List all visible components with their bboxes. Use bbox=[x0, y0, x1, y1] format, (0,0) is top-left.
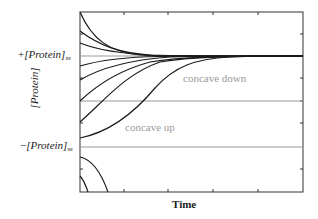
label-sub: ss bbox=[65, 54, 70, 62]
annotation-concave-up: concave up bbox=[125, 121, 175, 133]
trajectory-curves bbox=[80, 12, 303, 192]
plot-frame bbox=[80, 12, 303, 192]
annotation-concave-down: concave down bbox=[183, 72, 246, 84]
label-text: [Protein] bbox=[26, 139, 67, 151]
protein-dynamics-plot bbox=[0, 0, 318, 219]
reference-lines bbox=[80, 56, 303, 147]
axis-ticks bbox=[80, 12, 303, 192]
x-axis-title: Time bbox=[172, 198, 196, 210]
y-tick-label-plus-ss: +[Protein]ss bbox=[18, 48, 71, 62]
y-axis-title: [Protein] bbox=[28, 58, 40, 118]
y-tick-label-minus-ss: −[Protein]ss bbox=[20, 139, 73, 153]
label-sub: ss bbox=[67, 145, 72, 153]
